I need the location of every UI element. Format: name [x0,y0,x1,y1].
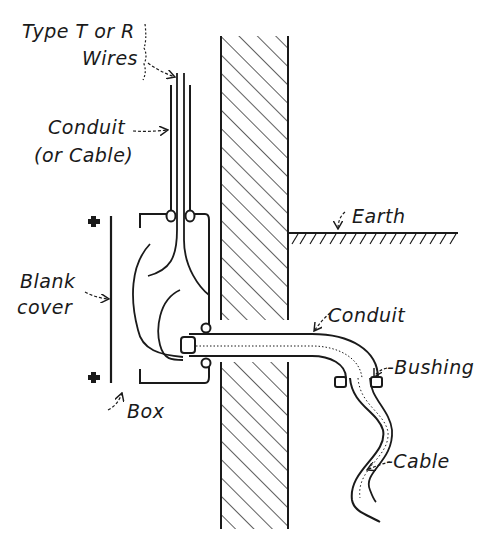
label-conduit-top-line2: (or Cable) [34,146,133,165]
label-blank-cover-line1: Blank [20,272,76,291]
label-blank-cover-line2: cover [17,298,72,317]
label-cable: -Cable [386,452,450,471]
label-wires-line1: Type T or R [22,22,135,41]
wall-section [221,36,288,529]
vertical-conduit [171,85,190,213]
label-earth: Earth [352,207,405,226]
label-conduit-top-line1: Conduit [48,118,125,137]
label-conduit-right: Conduit [328,306,405,325]
label-box: Box [127,402,164,421]
cover-screws [88,216,100,383]
earth-grade [288,233,458,244]
label-wires-line2: Wires [82,49,138,68]
outlet-box [140,211,211,384]
label-bushing: -Bushing [387,358,474,377]
